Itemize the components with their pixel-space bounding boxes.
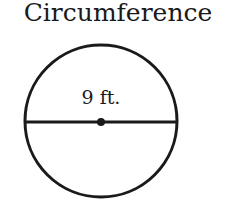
center-point (97, 118, 105, 126)
diameter-label: 9 ft. (61, 86, 141, 108)
